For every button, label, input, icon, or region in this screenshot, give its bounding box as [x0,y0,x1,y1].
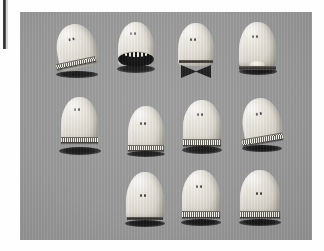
figure-toothed-band [183,139,221,146]
figure-toothed-band [61,137,98,143]
figure-toothed-band [182,211,220,218]
capsule-figure [176,23,216,81]
figure-cast-shadow [127,151,165,157]
figure-bowtie-base [181,65,211,78]
figure-eyes [68,37,74,41]
figure-eye-left [140,122,142,125]
figure-body [61,97,98,142]
figure-eye-left [197,113,199,116]
figure-eye-right [201,113,203,116]
figure-eyes [256,192,262,195]
figure-inner [237,22,279,78]
figure-eye-right [260,192,262,195]
figure-base-rim [127,217,163,220]
figure-eye-left [140,194,142,197]
figure-body [126,172,164,220]
figure-inner [124,172,166,230]
figure-open-mouth [118,51,154,67]
bowtie-wing-left [181,65,196,78]
figure-eye-left [130,32,132,35]
figure-mouth-teeth [121,52,151,57]
figure-inner [176,23,216,81]
capsule-figure [124,172,166,230]
page-gutter-bar-shadow [6,0,8,49]
figure-body [128,106,164,150]
figure-cast-shadow [181,219,221,226]
figure-eyes [196,185,202,188]
figure-eye-right [256,35,258,38]
figure-toothed-band [240,211,280,218]
page-sheet [0,0,324,251]
capsule-figure [59,97,101,157]
figure-body [182,170,220,216]
figure-toothed-band [128,145,164,151]
figure-base-rim [239,66,276,70]
capsule-figure [237,22,279,78]
figure-eye-right [194,38,196,41]
photograph [20,12,312,240]
figure-eye-left [68,38,71,41]
figure-body [183,100,221,144]
figure-eye-right [144,122,146,125]
figure-eye-left [252,35,254,38]
figure-inner [181,100,223,158]
figure-cast-shadow [59,147,101,155]
figure-eyes [130,32,136,35]
capsule-figure [126,106,166,160]
figure-cast-shadow [242,145,282,152]
capsule-figure [180,170,222,230]
figure-eye-right [260,112,262,115]
figure-inner [59,97,101,157]
figure-cast-shadow [56,71,98,78]
figure-eye-right [200,185,202,188]
figure-inner [126,106,166,160]
figure-eye-left [196,185,198,188]
capsule-figure [240,98,286,156]
figure-cast-shadow [239,219,281,226]
figure-eyes [74,108,80,111]
figure-inner [116,22,156,78]
figure-eye-left [190,38,192,41]
figure-eye-right [134,32,136,35]
figure-base-rim [179,60,213,63]
figure-cast-shadow [182,146,222,154]
capsule-figure [238,170,282,230]
figure-inner [54,24,98,78]
figure-eyes [197,113,203,116]
figure-eye-left [256,113,258,116]
figure-eye-left [256,192,258,195]
bowtie-wing-right [196,65,211,78]
figure-inner [180,170,222,230]
capsule-figure [116,22,156,78]
figure-eyes [256,112,262,116]
figure-eyes [140,194,146,197]
figure-eyes [140,122,146,125]
figure-inner [238,170,282,230]
figure-eye-right [72,37,75,40]
figure-body [240,170,280,216]
figure-eye-right [144,194,146,197]
figure-cast-shadow [125,220,165,227]
figure-eye-left [74,108,76,111]
capsule-figure [181,100,223,158]
figure-inner [240,98,286,156]
figure-eye-right [78,108,80,111]
figure-eyes [252,35,258,38]
figure-eyes [190,38,196,41]
capsule-figure [54,24,98,78]
